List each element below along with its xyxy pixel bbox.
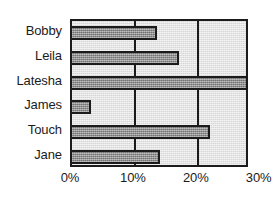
x-axis-tick-label: 30%	[246, 170, 272, 185]
bar-row[interactable]	[72, 95, 91, 120]
bar-series	[72, 21, 246, 165]
bar[interactable]	[70, 150, 160, 164]
bar[interactable]	[70, 125, 210, 139]
y-axis-tick-label: Bobby	[26, 24, 66, 38]
x-axis-tick-labels: 0%10%20%30%	[0, 170, 277, 192]
bar-row[interactable]	[72, 46, 179, 71]
y-axis-tick-label: Jane	[34, 148, 66, 162]
bar[interactable]	[70, 100, 91, 114]
bar[interactable]	[70, 51, 179, 65]
x-axis-tick-label: 10%	[120, 170, 146, 185]
bar-row[interactable]	[72, 21, 157, 46]
bar-row[interactable]	[72, 70, 248, 95]
y-axis-category-labels: Bobby Leila Latesha James Touch Jane	[0, 19, 66, 167]
bar-row[interactable]	[72, 120, 210, 145]
plot-area	[70, 19, 248, 167]
horizontal-bar-chart: Bobby Leila Latesha James Touch Jane 0%1…	[0, 0, 277, 201]
y-axis-tick-label: Latesha	[16, 74, 66, 88]
y-axis-tick-label: Leila	[35, 49, 66, 63]
y-axis-tick-label: James	[24, 98, 66, 112]
x-axis-tick-label: 20%	[183, 170, 209, 185]
bar[interactable]	[70, 26, 157, 40]
bar-row[interactable]	[72, 144, 160, 169]
x-axis-tick-label: 0%	[61, 170, 80, 185]
y-axis-tick-label: Touch	[28, 123, 66, 137]
bar[interactable]	[70, 76, 248, 90]
